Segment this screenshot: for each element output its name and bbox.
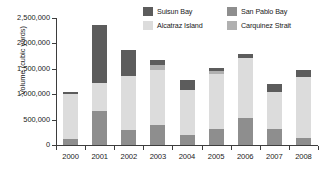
bar-2001 (92, 25, 107, 145)
legend-label-san-pablo-bay: San Pablo Bay (241, 7, 287, 16)
x-axis-tick-label: 2001 (85, 152, 114, 161)
y-axis-title: Volume (cubic yards) (18, 6, 27, 116)
bar-2002 (121, 50, 136, 146)
y-axis-tick-label: 2,000,000 (0, 39, 50, 47)
bar-segment (63, 94, 78, 139)
x-axis-tick-label: 2005 (202, 152, 231, 161)
x-axis-tick (318, 146, 319, 150)
x-axis-tick (231, 146, 232, 150)
x-axis-tick (56, 146, 57, 150)
x-axis-tick (289, 146, 290, 150)
bar-segment (92, 25, 107, 83)
bar-segment (296, 70, 311, 77)
bar-segment (180, 80, 195, 90)
x-axis-tick-label: 2002 (114, 152, 143, 161)
x-axis-tick (172, 146, 173, 150)
legend-item-suisun-bay: Suisun Bay (143, 4, 227, 18)
bar-segment (267, 92, 282, 129)
legend-item-san-pablo-bay: San Pablo Bay (227, 4, 321, 18)
plot-area (56, 18, 318, 145)
bar-segment (121, 76, 136, 130)
bar-segment (296, 138, 311, 145)
bar-segment (209, 129, 224, 145)
bar-segment (209, 74, 224, 129)
legend-swatch-suisun-bay (143, 7, 153, 16)
bar-segment (267, 129, 282, 145)
bar-segment (267, 84, 282, 92)
y-axis-tick-label: 1,000,000 (0, 90, 50, 98)
x-axis-tick-label: 2007 (260, 152, 289, 161)
bar-segment (296, 77, 311, 138)
bar-segment (150, 125, 165, 145)
y-axis-tick-label: 2,500,000 (0, 14, 50, 22)
bar-segment (92, 83, 107, 111)
bar-2008 (296, 70, 311, 145)
bar-segment (92, 111, 107, 145)
bar-2007 (267, 84, 282, 145)
x-axis-tick-label: 2000 (56, 152, 85, 161)
x-axis-tick-label: 2006 (231, 152, 260, 161)
bar-segment (238, 118, 253, 145)
bar-segment (180, 90, 195, 135)
x-axis-tick-label: 2003 (143, 152, 172, 161)
bar-2000 (63, 92, 78, 145)
bar-2005 (209, 68, 224, 145)
stacked-bar-chart: Suisun Bay San Pablo Bay Alcatraz Island… (0, 0, 324, 170)
bar-2003 (150, 60, 165, 145)
bar-2004 (180, 80, 195, 145)
legend-label-suisun-bay: Suisun Bay (157, 7, 192, 16)
y-axis-tick-label: 1,500,000 (0, 65, 50, 73)
bar-segment (121, 50, 136, 76)
bar-segment (63, 139, 78, 145)
x-axis-tick-label: 2008 (289, 152, 318, 161)
legend-swatch-san-pablo-bay (227, 7, 237, 16)
bar-2006 (238, 54, 253, 145)
x-axis-tick (114, 146, 115, 150)
x-axis-tick (202, 146, 203, 150)
bar-segment (238, 58, 253, 118)
x-axis-line (56, 145, 318, 146)
y-axis-tick-label: 0 (0, 141, 50, 149)
x-axis-tick (143, 146, 144, 150)
bar-segment (150, 70, 165, 124)
y-axis-tick-label: 500,000 (0, 116, 50, 124)
x-axis-tick-label: 2004 (172, 152, 201, 161)
bar-segment (121, 130, 136, 145)
x-axis-tick (260, 146, 261, 150)
bar-segment (180, 135, 195, 145)
x-axis-tick (85, 146, 86, 150)
